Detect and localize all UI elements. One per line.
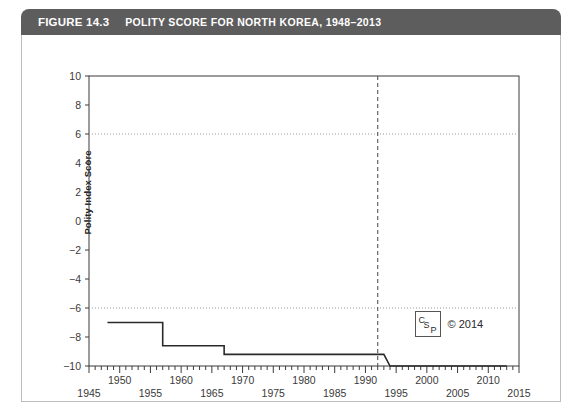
y-tick-label: −2: [51, 245, 81, 256]
figure-container: FIGURE 14.3 POLITY SCORE FOR NORTH KOREA…: [21, 9, 561, 402]
copyright-text: © 2014: [448, 318, 484, 330]
x-tick-label: 1995: [376, 388, 416, 399]
x-tick-label: 2000: [407, 375, 447, 386]
x-tick-label: 1955: [130, 388, 170, 399]
x-tick-label: 1975: [253, 388, 293, 399]
figure-number: FIGURE 14.3: [38, 16, 109, 28]
y-tick-label: 8: [51, 100, 81, 111]
x-tick-label: 1985: [315, 388, 355, 399]
csp-credit: C S P © 2014: [415, 311, 484, 337]
csp-letter-s: S: [424, 320, 430, 330]
y-tick-label: −4: [51, 274, 81, 285]
x-tick-label: 2010: [468, 375, 508, 386]
x-tick-label: 2005: [438, 388, 478, 399]
y-tick-label: 0: [51, 216, 81, 227]
x-tick-label: 1970: [223, 375, 263, 386]
figure-title: POLITY SCORE FOR NORTH KOREA, 1948–2013: [125, 16, 381, 28]
csp-letter-p: P: [431, 325, 437, 335]
figure-body: Polity Index Score 1086420−2−4−6−8−10 19…: [21, 35, 561, 402]
x-tick-label: 1945: [69, 388, 109, 399]
x-tick-label: 1950: [100, 375, 140, 386]
y-tick-label: 6: [51, 129, 81, 140]
x-tick-label: 1980: [284, 375, 324, 386]
y-tick-label: 2: [51, 187, 81, 198]
polity-score-chart: Polity Index Score 1086420−2−4−6−8−10 19…: [22, 35, 562, 402]
figure-header-inner: FIGURE 14.3 POLITY SCORE FOR NORTH KOREA…: [38, 9, 381, 35]
y-tick-label: −10: [51, 361, 81, 372]
csp-logo-icon: C S P: [415, 311, 441, 337]
chart-plot-area: [22, 35, 562, 402]
x-tick-label: 2015: [499, 388, 539, 399]
x-tick-label: 1990: [345, 375, 385, 386]
y-tick-label: −6: [51, 303, 81, 314]
x-tick-label: 1960: [161, 375, 201, 386]
x-tick-label: 1965: [192, 388, 232, 399]
y-tick-label: −8: [51, 332, 81, 343]
figure-header-bar: FIGURE 14.3 POLITY SCORE FOR NORTH KOREA…: [21, 9, 561, 35]
y-tick-label: 4: [51, 158, 81, 169]
y-tick-label: 10: [51, 71, 81, 82]
